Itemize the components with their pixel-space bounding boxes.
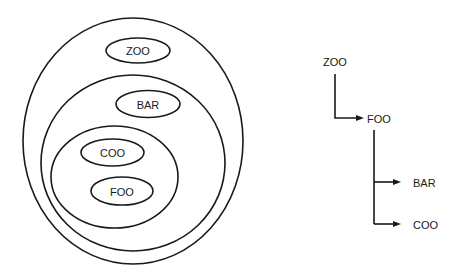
- node-label: ZOO: [126, 45, 150, 57]
- arrow-right-icon: [393, 221, 401, 227]
- tree-root-zoo-label: ZOO: [323, 56, 347, 68]
- node-label: BAR: [137, 99, 160, 111]
- node-label: FOO: [110, 186, 134, 198]
- tree-node-coo-label: COO: [413, 219, 439, 231]
- tree-node-bar-label: BAR: [413, 177, 436, 189]
- edge-foo-to-coo: [374, 221, 401, 227]
- tree-node-foo-label: FOO: [367, 113, 391, 125]
- arrow-right-icon: [356, 115, 364, 121]
- nested-scope-diagram: ZOO BAR COO FOO: [23, 18, 243, 264]
- tree-diagram: ZOO FOO BAR COO: [323, 56, 439, 231]
- node-label: COO: [100, 147, 126, 159]
- scope-node-foo: FOO: [91, 177, 153, 205]
- connector-line: [335, 74, 356, 118]
- arrow-right-icon: [393, 179, 401, 185]
- edge-zoo-to-foo: [335, 74, 364, 121]
- diagram-canvas: ZOO BAR COO FOO ZOO FOO BAR: [0, 0, 461, 273]
- scope-node-coo: COO: [81, 139, 144, 166]
- scope-node-zoo: ZOO: [106, 38, 170, 63]
- edge-foo-to-bar: [374, 130, 401, 224]
- scope-node-bar: BAR: [116, 91, 180, 118]
